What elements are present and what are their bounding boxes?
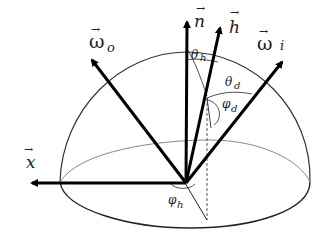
svg-text:θ: θ [225,75,233,89]
label-omega-o: → ω o [89,23,115,55]
label-omega-i: → ω i [257,25,284,54]
svg-text:o: o [107,40,115,55]
label-phi-h: φ h [168,193,183,210]
label-h: → h [229,6,240,37]
svg-text:h: h [229,17,240,37]
hemisphere-diagram: → n → h → ω i → ω o → x θ h θ d φ d φ h [0,0,324,234]
label-phi-d: φ d [222,97,237,114]
label-n: → n [194,2,205,31]
equator-front [60,182,310,228]
svg-text:n: n [194,11,205,31]
svg-text:ω: ω [257,32,273,54]
label-theta-h: θ h [191,48,206,63]
svg-text:h: h [200,52,206,63]
svg-text:ω: ω [89,30,105,52]
label-x: → x [24,143,36,172]
svg-text:h: h [177,199,183,210]
h-azimuth-line [185,183,207,220]
svg-text:i: i [280,38,284,53]
svg-text:φ: φ [168,193,177,207]
svg-text:d: d [231,103,237,114]
svg-text:θ: θ [191,48,199,62]
svg-text:x: x [26,152,36,172]
vector-n-arrow [186,22,187,183]
label-theta-d: θ d [225,75,240,91]
svg-text:d: d [234,80,240,91]
vector-omega-o-arrow [92,60,186,183]
half-vector-ref-line [207,98,211,128]
svg-text:φ: φ [222,97,231,111]
